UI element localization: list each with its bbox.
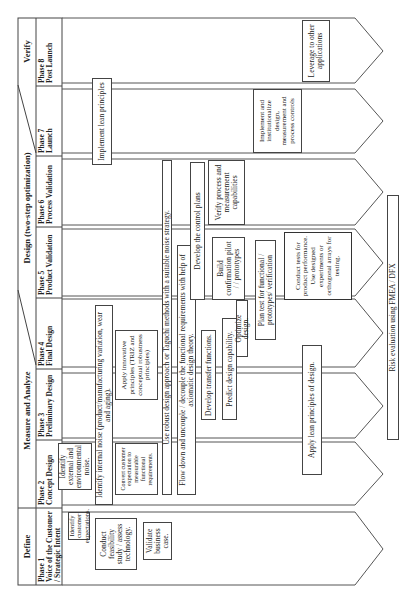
activity-risk-evaluation: Risk evaluation using FMEA / DFX	[387, 195, 399, 440]
phase-8-label: Phase 8Post Launch	[36, 18, 62, 86]
activity-develop-transfer-functions: Develop transfer functions.	[201, 330, 216, 420]
phase-name: Preliminary Design	[46, 372, 54, 437]
phase-1-label: Phase 1Voice of the Customer / Strategic…	[36, 508, 68, 585]
stage-design: Design (two-step optimization)	[18, 108, 36, 308]
activity-conduct-feasibility: Conduct feasibility study / assess techn…	[95, 518, 137, 570]
activity-plan-test: Plan test for functional / prototypes/ v…	[255, 240, 276, 340]
phase-name: Product Validation	[46, 230, 54, 295]
activity-identify-external-noise: Identify external and environmental nois…	[58, 443, 92, 490]
phase-5-label: Phase 5Product Validation	[36, 227, 62, 298]
activity-build-confirmation: Build confirmation pilot / / prototypes	[212, 237, 245, 300]
activity-conduct-tests: Conduct tests for product performance. U…	[284, 232, 352, 300]
activity-identify-internal-noise: Identify internal noise (product/manufac…	[95, 305, 113, 505]
stage-verify: Verify	[18, 18, 36, 85]
activity-optimize-design: Optimize design.	[236, 300, 248, 357]
activity-robust-design: Use robust design approach or Taguchi me…	[162, 160, 172, 495]
phase-name: Post Launch	[46, 21, 54, 83]
activity-develop-control-plans: Develop the control plans	[190, 162, 205, 300]
activity-verify-process: Verify process and measurement capabilit…	[208, 160, 245, 225]
phase-6-label: Phase 6Process Validation	[36, 156, 62, 227]
phase-name: Concept Design	[46, 443, 54, 505]
activity-identify-customer-expectations: Identify customer expectations.	[68, 512, 90, 540]
stage-define: Define	[18, 508, 36, 585]
phase-name: Process Validation	[46, 159, 54, 224]
dfss-roadmap-diagram: Define Measure and Analyze Design (two-s…	[0, 0, 406, 608]
activity-convert-customer-expectation: Convert customer expectation to measurab…	[115, 443, 158, 495]
activity-leverage: Leverage to other applications	[302, 20, 330, 82]
activity-validate-business-case: Validate business case.	[143, 522, 172, 560]
activity-apply-lean-design: Apply lean principles of design.	[302, 345, 322, 475]
stage-measure-analyze: Measure and Analyze	[18, 323, 36, 498]
activity-apply-innovative-principles: Apply innovative principles (TRIZ and co…	[115, 330, 158, 400]
phase-name: Voice of the Customer / Strategic Intent	[46, 511, 62, 582]
phase-name: Final Design	[46, 301, 54, 366]
phase-4-label: Phase 4Final Design	[36, 298, 62, 369]
phase-name: Launch	[46, 89, 54, 153]
phase-3-label: Phase 3Preliminary Design	[36, 369, 62, 440]
activity-implement-lean: Implement lean principles	[92, 78, 112, 165]
phase-7-label: Phase 7Launch	[36, 86, 62, 156]
activity-implement-institutionalize: Implement and institutionalize design, m…	[253, 89, 302, 153]
